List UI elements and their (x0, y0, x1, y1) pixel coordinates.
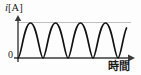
rectified-sine-curve (18, 23, 127, 58)
x-axis-label: 時間 (108, 61, 130, 72)
rectified-current-waveform-figure: i[A] 0 時間 (0, 0, 141, 75)
y-axis-arrowhead-icon (15, 15, 21, 21)
y-axis-label: i[A] (5, 2, 23, 14)
origin-label: 0 (8, 50, 13, 60)
y-axis-unit: [A] (8, 2, 23, 13)
